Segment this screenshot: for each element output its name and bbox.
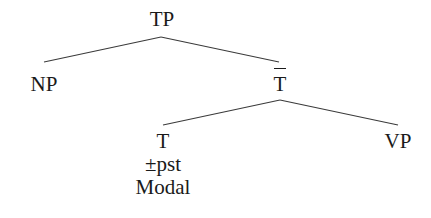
tree-edges: [0, 0, 431, 218]
node-t: T: [148, 130, 178, 152]
overline-bar: [274, 68, 286, 69]
node-vp: VP: [375, 130, 421, 152]
node-t-feature-pst: ±pst: [133, 153, 193, 175]
edge-tbar-t: [163, 100, 280, 125]
edge-tp-tbar: [161, 37, 279, 62]
node-tp: TP: [140, 8, 184, 30]
node-t-feature-modal: Modal: [123, 176, 203, 198]
edge-tp-np: [44, 37, 161, 62]
node-tbar-label: T: [268, 73, 292, 95]
node-tbar: T: [268, 66, 292, 94]
edge-tbar-vp: [280, 100, 398, 125]
node-np: NP: [22, 73, 66, 95]
